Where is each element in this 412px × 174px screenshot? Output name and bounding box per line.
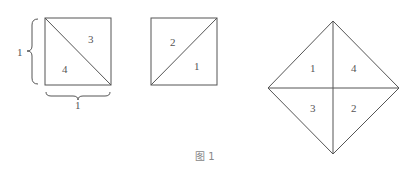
square-a-diagonal: [45, 18, 111, 85]
diamond-label-bottom-right: 2: [351, 102, 357, 114]
square-a-dimension-left: 1: [17, 46, 23, 58]
square-b-label-1: 1: [194, 60, 200, 72]
square-a-label-3: 3: [88, 33, 94, 45]
square-b: 2 1: [151, 18, 217, 85]
diamond-label-top-left: 1: [310, 62, 316, 74]
square-a-dimension-bottom: 1: [75, 99, 81, 111]
figure-caption: 图 1: [195, 151, 215, 162]
diamond: 1 4 3 2: [268, 21, 399, 154]
square-b-label-2: 2: [170, 36, 176, 48]
left-brace-icon: [27, 19, 38, 84]
figure-canvas: 3 4 1 1 2 1 1 4 3 2 图 1: [0, 0, 412, 174]
diamond-label-top-right: 4: [351, 62, 357, 74]
square-a: 3 4 1 1: [17, 18, 111, 111]
square-a-label-4: 4: [62, 63, 68, 75]
diamond-label-bottom-left: 3: [310, 102, 316, 114]
square-b-diagonal: [151, 18, 217, 85]
